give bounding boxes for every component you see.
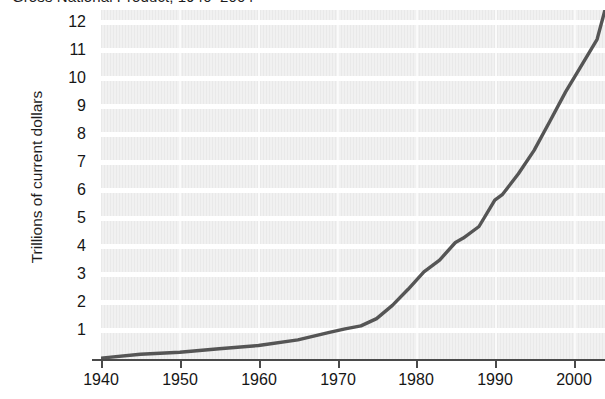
y-tick-label-2: 2	[16, 294, 86, 310]
y-tick-label-6: 6	[16, 182, 86, 198]
x-tickmark-1960	[259, 359, 261, 368]
y-tick-label-7: 7	[16, 154, 86, 170]
x-tickmark-1980	[416, 359, 418, 368]
y-tick-label-5: 5	[16, 210, 86, 226]
x-tickmark-1970	[338, 359, 340, 368]
y-tick-label-1: 1	[16, 322, 86, 338]
y-tick-label-9: 9	[16, 98, 86, 114]
x-tickmark-2000	[574, 359, 576, 368]
x-tick-label-1980: 1980	[386, 371, 446, 389]
x-axis-line	[92, 359, 605, 361]
x-tickmark-1950	[180, 359, 182, 368]
x-tick-label-1990: 1990	[465, 371, 525, 389]
y-tick-label-11: 11	[16, 42, 86, 58]
x-tick-label-1960: 1960	[229, 371, 289, 389]
y-tick-label-12: 12	[16, 14, 86, 30]
x-tick-label-1940: 1940	[71, 371, 131, 389]
x-tick-label-1950: 1950	[150, 371, 210, 389]
x-tickmark-1990	[495, 359, 497, 368]
x-tick-label-1970: 1970	[308, 371, 368, 389]
chart-figure: Gross National Product, 1940–2004 Trilli…	[0, 0, 605, 399]
y-tick-label-8: 8	[16, 126, 86, 142]
x-tickmark-1940	[101, 359, 103, 368]
plot-area	[101, 10, 605, 361]
y-tick-label-10: 10	[16, 70, 86, 86]
y-tick-label-4: 4	[16, 238, 86, 254]
chart-title: Gross National Product, 1940–2004	[12, 0, 254, 5]
x-tick-label-2000: 2000	[544, 371, 604, 389]
y-tick-label-3: 3	[16, 266, 86, 282]
